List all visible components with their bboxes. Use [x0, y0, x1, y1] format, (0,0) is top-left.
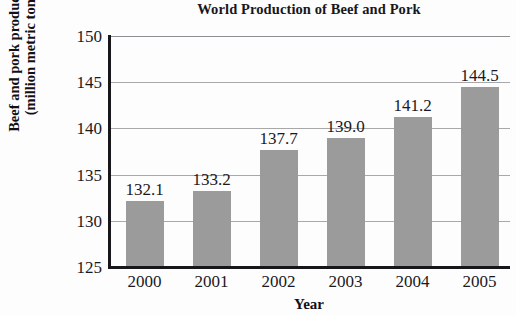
- plot-area: 132.1133.2137.7139.0141.2144.5: [108, 36, 510, 267]
- y-axis-tick-label: 150: [56, 28, 102, 45]
- x-axis-line: [108, 266, 510, 269]
- bar: [260, 150, 298, 267]
- bar-value-label: 144.5: [445, 66, 515, 86]
- x-axis-title: Year: [108, 296, 510, 313]
- bar-value-label: 133.2: [177, 170, 247, 190]
- bar: [126, 201, 164, 267]
- y-axis-tick-label: 130: [56, 213, 102, 230]
- y-axis-tick-label: 140: [56, 120, 102, 137]
- bar-chart-figure: World Production of Beef and Pork Beef a…: [0, 0, 516, 316]
- bar-value-label: 137.7: [244, 129, 314, 149]
- y-axis-title-line-1: Beef and pork production: [6, 0, 22, 132]
- y-axis-tick-label: 135: [56, 167, 102, 184]
- y-axis-tick-label: 125: [56, 259, 102, 276]
- x-axis-tick-label: 2005: [445, 272, 515, 292]
- y-axis-title-line-2: (million metric tons): [22, 0, 38, 115]
- bar-value-label: 141.2: [378, 96, 448, 116]
- x-axis-tick-label: 2002: [244, 272, 314, 292]
- gridline: [109, 36, 510, 37]
- bar: [461, 87, 499, 267]
- x-axis-tick-label: 2003: [311, 272, 381, 292]
- y-axis-tick-labels: 150145140135130125: [54, 36, 102, 267]
- bar-value-label: 139.0: [311, 117, 381, 137]
- chart-title: World Production of Beef and Pork: [108, 1, 510, 18]
- bar: [327, 138, 365, 267]
- gridline: [109, 221, 510, 222]
- x-axis-tick-label: 2004: [378, 272, 448, 292]
- gridline: [109, 175, 510, 176]
- y-axis-title: Beef and pork production (million metric…: [0, 0, 44, 172]
- bar: [394, 117, 432, 267]
- x-axis-tick-label: 2000: [110, 272, 180, 292]
- y-axis-line: [108, 35, 111, 268]
- bar-value-label: 132.1: [110, 180, 180, 200]
- y-axis-tick-label: 145: [56, 74, 102, 91]
- bar: [193, 191, 231, 267]
- x-axis-tick-label: 2001: [177, 272, 247, 292]
